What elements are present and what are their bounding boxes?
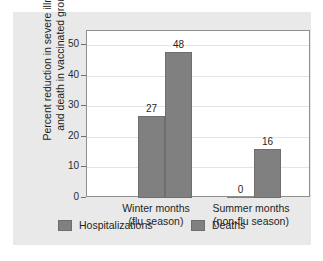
bar-winter-deaths — [165, 52, 192, 198]
legend-label-hospitalizations: Hospitalizations — [79, 220, 153, 231]
gridline-40 — [87, 76, 309, 77]
y-tick-mark-0 — [81, 197, 86, 198]
legend-item-hospitalizations: Hospitalizations — [58, 220, 153, 231]
bar-value-summer-hospitalizations: 0 — [225, 184, 256, 195]
chart-legend: Hospitalizations Deaths — [13, 220, 311, 236]
bar-summer-hospitalizations — [227, 197, 254, 198]
y-tick-label-20: 20 — [59, 131, 79, 141]
bar-winter-hospitalizations — [138, 116, 165, 198]
gridline-30 — [87, 106, 309, 107]
y-tick-label-40: 40 — [59, 70, 79, 80]
bar-value-winter-deaths: 48 — [163, 39, 194, 50]
gridline-50 — [87, 45, 309, 46]
category-label-summer-line1: Summer months — [191, 202, 311, 215]
y-tick-label-10: 10 — [59, 161, 79, 171]
y-tick-label-50: 50 — [59, 39, 79, 49]
chart-figure: Percent reduction in severe illness and … — [13, 12, 311, 245]
plot-area: 27 48 0 16 — [86, 30, 310, 197]
y-tick-label-0: 0 — [59, 192, 79, 202]
bar-summer-deaths — [254, 149, 281, 198]
legend-swatch-hospitalizations — [58, 220, 72, 231]
legend-label-deaths: Deaths — [212, 220, 245, 231]
bar-value-winter-hospitalizations: 27 — [136, 103, 167, 114]
bar-value-summer-deaths: 16 — [252, 136, 283, 147]
legend-swatch-deaths — [191, 220, 205, 231]
y-tick-label-30: 30 — [59, 100, 79, 110]
legend-item-deaths: Deaths — [191, 220, 245, 231]
